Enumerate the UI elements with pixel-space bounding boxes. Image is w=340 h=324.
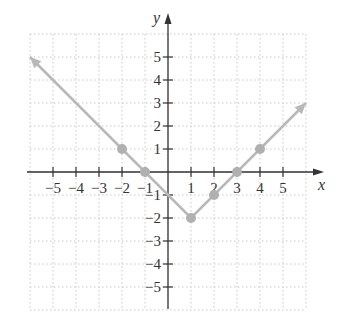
data-point [117,144,127,154]
x-axis-label: x [317,176,325,193]
x-tick-label: −4 [68,180,84,196]
x-tick-label: 3 [233,180,241,196]
y-tick-label: −4 [145,256,161,272]
y-tick-label: −1 [145,187,161,203]
y-tick-label: 2 [154,118,162,134]
x-tick-label: 5 [279,180,287,196]
x-tick-label: 4 [256,180,264,196]
y-tick-label: 4 [154,72,162,88]
y-axis-arrow-icon [165,13,172,24]
x-tick-label: 1 [187,180,195,196]
y-tick-label: −2 [145,210,161,226]
x-tick-label: −3 [91,180,107,196]
data-point [186,213,196,223]
y-axis-label: y [151,9,161,27]
y-tick-label: 1 [154,141,162,157]
y-tick-label: −5 [145,279,161,295]
data-point [232,167,242,177]
data-point [140,167,150,177]
x-tick-label: −5 [45,180,61,196]
y-tick-label: −3 [145,233,161,249]
data-point [255,144,265,154]
graph-plot: −5−4−3−2−112345−5−4−3−2−112345 x y [0,0,340,324]
data-point [209,190,219,200]
x-axis-arrow-icon [313,169,324,176]
y-tick-label: 5 [154,49,162,65]
x-tick-label: −2 [114,180,130,196]
y-tick-label: 3 [154,95,162,111]
